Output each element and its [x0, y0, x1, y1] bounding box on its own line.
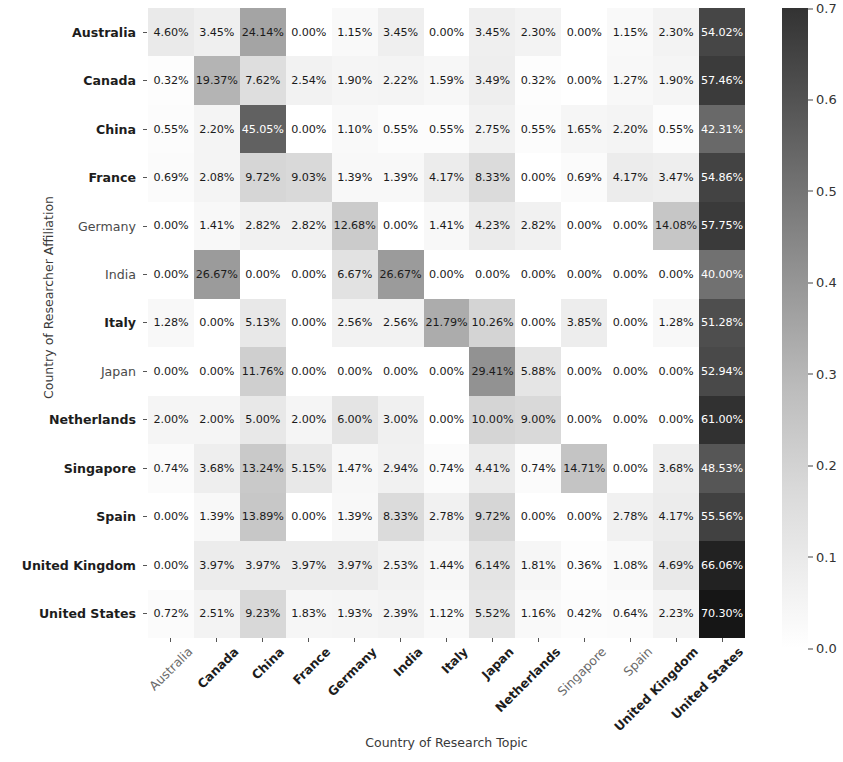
heatmap-cell-value: 0.69%	[153, 172, 188, 183]
heatmap-cell: 1.65%	[561, 105, 607, 153]
heatmap-cell-value: 2.56%	[383, 317, 418, 328]
heatmap-cell-value: 1.90%	[659, 75, 694, 86]
heatmap-cell-value: 1.39%	[337, 511, 372, 522]
heatmap-cell: 0.00%	[194, 299, 240, 347]
heatmap-cell: 19.37%	[194, 56, 240, 104]
heatmap-cell: 5.52%	[469, 590, 515, 638]
heatmap-cell-value: 0.00%	[153, 220, 188, 231]
colorbar-tick: 0.3	[808, 366, 837, 381]
colorbar-tick-text: 0.0	[816, 641, 837, 656]
heatmap-cell-value: 1.65%	[567, 124, 602, 135]
heatmap-cell-value: 9.03%	[291, 172, 326, 183]
heatmap-cell-value: 14.08%	[655, 220, 697, 231]
heatmap-cell: 7.62%	[240, 56, 286, 104]
heatmap-cell: 5.00%	[240, 396, 286, 444]
heatmap-cell-value: 9.72%	[475, 511, 510, 522]
heatmap-cell: 0.00%	[148, 493, 194, 541]
colorbar-tick: 0.7	[808, 1, 837, 16]
heatmap-cell: 0.00%	[286, 105, 332, 153]
heatmap-cell: 2.00%	[286, 396, 332, 444]
heatmap-cell-value: 2.54%	[291, 75, 326, 86]
heatmap-cell: 0.00%	[653, 250, 699, 298]
heatmap-cell-value: 5.52%	[475, 608, 510, 619]
heatmap-cell: 0.64%	[607, 590, 653, 638]
heatmap-cell-value: 0.00%	[613, 269, 648, 280]
heatmap-cell: 2.56%	[332, 299, 378, 347]
heatmap-cell-value: 0.32%	[153, 75, 188, 86]
heatmap-cell: 2.23%	[653, 590, 699, 638]
heatmap-cell: 2.51%	[194, 590, 240, 638]
heatmap-cell: 5.15%	[286, 444, 332, 492]
colorbar-tick-mark	[808, 8, 813, 9]
heatmap-cell: 52.94%	[699, 347, 745, 395]
heatmap-cell-value: 0.69%	[567, 172, 602, 183]
heatmap-cell: 0.00%	[653, 396, 699, 444]
heatmap-cell-value: 1.39%	[337, 172, 372, 183]
heatmap-cell: 3.47%	[653, 153, 699, 201]
heatmap-cell: 4.41%	[469, 444, 515, 492]
heatmap-cell: 0.00%	[286, 8, 332, 56]
heatmap-cell: 3.45%	[378, 8, 424, 56]
heatmap-cell-value: 0.00%	[567, 511, 602, 522]
heatmap-cell-value: 13.24%	[242, 463, 284, 474]
heatmap-cell: 3.97%	[332, 541, 378, 589]
heatmap-cell-value: 0.00%	[521, 511, 556, 522]
heatmap-cell-value: 26.67%	[380, 269, 422, 280]
heatmap-cell: 1.93%	[332, 590, 378, 638]
heatmap-cell: 2.22%	[378, 56, 424, 104]
y-axis-tick-label: Spain	[0, 493, 142, 541]
heatmap-cell: 9.72%	[240, 153, 286, 201]
heatmap-cell-value: 0.00%	[383, 366, 418, 377]
heatmap-cell: 3.00%	[378, 396, 424, 444]
heatmap-cell: 2.82%	[515, 202, 561, 250]
heatmap-cell: 57.46%	[699, 56, 745, 104]
heatmap-cell-value: 2.20%	[613, 124, 648, 135]
heatmap-cell: 13.24%	[240, 444, 286, 492]
heatmap-cell: 61.00%	[699, 396, 745, 444]
heatmap-cell: 3.97%	[194, 541, 240, 589]
heatmap-cell: 2.78%	[607, 493, 653, 541]
heatmap-cell: 9.03%	[286, 153, 332, 201]
colorbar-tick-text: 0.3	[816, 366, 837, 381]
heatmap-cell: 14.71%	[561, 444, 607, 492]
heatmap-cell-value: 55.56%	[701, 511, 743, 522]
heatmap-cell-value: 12.68%	[334, 220, 376, 231]
heatmap-cell-value: 13.89%	[242, 511, 284, 522]
heatmap-cell-value: 0.00%	[291, 27, 326, 38]
heatmap-cell: 1.39%	[332, 493, 378, 541]
heatmap-cell-value: 10.00%	[471, 414, 513, 425]
heatmap-cell: 70.30%	[699, 590, 745, 638]
heatmap-cell-value: 0.00%	[153, 269, 188, 280]
heatmap-cell-value: 2.82%	[521, 220, 556, 231]
heatmap-cell-value: 57.75%	[701, 220, 743, 231]
y-axis-tick-label: China	[0, 105, 142, 153]
heatmap-cell-value: 0.55%	[429, 124, 464, 135]
heatmap-cell: 9.00%	[515, 396, 561, 444]
x-axis-tick-label: Spain	[620, 644, 655, 679]
heatmap-cell: 10.26%	[469, 299, 515, 347]
heatmap-cell: 0.00%	[561, 250, 607, 298]
heatmap-cell: 1.28%	[148, 299, 194, 347]
heatmap-cell-value: 5.15%	[291, 463, 326, 474]
heatmap-cell: 21.79%	[424, 299, 470, 347]
heatmap-cell-value: 4.69%	[659, 560, 694, 571]
heatmap-cell-value: 4.17%	[429, 172, 464, 183]
heatmap-cell-value: 0.00%	[613, 414, 648, 425]
heatmap-cell: 1.59%	[424, 56, 470, 104]
heatmap-cell: 0.00%	[515, 250, 561, 298]
colorbar-tick: 0.6	[808, 92, 837, 107]
heatmap-cell: 1.28%	[653, 299, 699, 347]
heatmap-cell-value: 0.00%	[613, 366, 648, 377]
heatmap-cell: 1.08%	[607, 541, 653, 589]
heatmap-cell: 0.00%	[286, 299, 332, 347]
y-axis-tick-label: Netherlands	[0, 396, 142, 444]
heatmap-cell-value: 0.00%	[521, 269, 556, 280]
heatmap-cell: 2.00%	[148, 396, 194, 444]
colorbar-tick-mark	[808, 557, 813, 558]
heatmap-cell-value: 2.82%	[291, 220, 326, 231]
x-axis-tick-label: Singapore	[554, 644, 609, 699]
heatmap-cell: 0.69%	[148, 153, 194, 201]
heatmap-cell: 0.00%	[286, 250, 332, 298]
heatmap-cell-value: 19.37%	[196, 75, 238, 86]
heatmap-cell: 0.74%	[515, 444, 561, 492]
